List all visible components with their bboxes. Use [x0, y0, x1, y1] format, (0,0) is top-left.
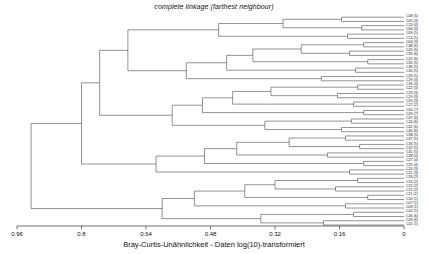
chart-title: complete linkage (farthest neighbour) [0, 3, 428, 10]
x-tick-label: 0.48 [205, 231, 217, 237]
x-tick-label: 0.64 [140, 231, 152, 237]
x-tick-label: 0 [402, 231, 406, 237]
leaf-label-column: C08 (5)C05 (4)C13 (4)C06 (4)C09 (5)C14 (… [406, 14, 428, 228]
x-axis: 0.960.80.640.480.320.160 [0, 225, 428, 239]
dendrogram-figure: complete linkage (farthest neighbour) C0… [0, 0, 428, 254]
x-tick-label: 0.32 [269, 231, 281, 237]
x-tick-label: 0.8 [77, 231, 86, 237]
x-tick-label: 0.96 [11, 231, 23, 237]
x-axis-label: Bray-Curtis-Unähnlichkeit - Daten log(10… [0, 240, 428, 249]
dendrogram-plot [0, 14, 428, 228]
x-tick-label: 0.16 [334, 231, 346, 237]
